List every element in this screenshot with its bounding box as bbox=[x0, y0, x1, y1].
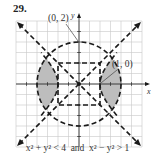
inequality-1: x² + y² < 4 bbox=[26, 143, 66, 153]
caption: x² + y² < 4 and x² − y² > 1 bbox=[0, 143, 155, 153]
y-axis-arrow-icon bbox=[77, 13, 81, 18]
labels: xy(0, 2)(1, 0) bbox=[48, 11, 151, 96]
inequality-2: x² − y² > 1 bbox=[89, 143, 129, 153]
y-axis-label: y bbox=[70, 11, 75, 20]
graph: xy(0, 2)(1, 0) bbox=[0, 0, 155, 158]
annotation-0-2: (0, 2) bbox=[48, 13, 69, 24]
and-text: and bbox=[71, 143, 85, 153]
x-axis-arrow-icon bbox=[145, 82, 150, 86]
leader-line bbox=[66, 24, 78, 41]
x-axis-label: x bbox=[146, 87, 151, 96]
annotation-1-0: (1, 0) bbox=[112, 59, 133, 70]
